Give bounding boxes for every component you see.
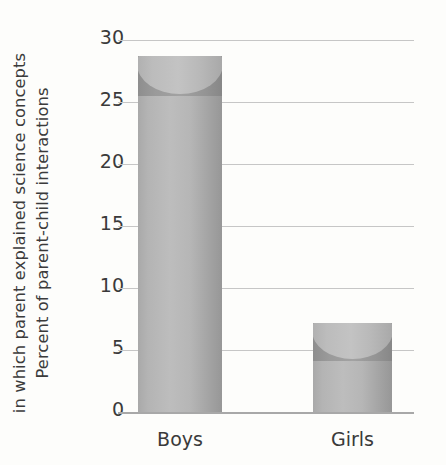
y-tick-25: 25 <box>88 90 124 109</box>
y-tick-0: 0 <box>88 400 124 419</box>
bar-boys[interactable] <box>138 56 222 412</box>
y-axis-tick-labels: 30 25 20 15 10 5 0 <box>84 0 124 465</box>
bar-chart: Percent of parent-child interactions in … <box>0 0 446 465</box>
y-tick-20: 20 <box>88 152 124 171</box>
y-axis-title: Percent of parent-child interactions in … <box>0 0 62 465</box>
x-tick-label-girls: Girls <box>313 430 392 449</box>
y-axis-title-line-2: in which parent explained science concep… <box>8 52 31 412</box>
gridline-baseline-0 <box>118 412 414 414</box>
y-axis-title-line-1: Percent of parent-child interactions <box>31 87 54 378</box>
x-tick-label-boys: Boys <box>138 430 222 449</box>
plot-area: Boys Girls <box>128 0 446 465</box>
gridline-30 <box>118 40 414 41</box>
y-tick-10: 10 <box>88 276 124 295</box>
y-tick-30: 30 <box>88 28 124 47</box>
y-tick-5: 5 <box>88 338 124 357</box>
bar-girls[interactable] <box>313 323 392 412</box>
y-tick-15: 15 <box>88 214 124 233</box>
